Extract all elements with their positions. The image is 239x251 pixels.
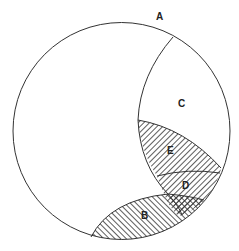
label-a: A (156, 11, 163, 22)
region-e (138, 120, 221, 176)
label-e: E (167, 145, 174, 156)
venn-diagram: A C E D B (0, 0, 239, 251)
label-c: C (178, 98, 185, 109)
label-d: D (182, 180, 189, 191)
label-b: B (141, 210, 148, 221)
